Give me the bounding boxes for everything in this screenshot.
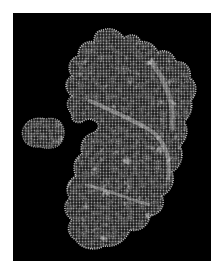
image-frame	[13, 13, 211, 261]
molecular-surface-render	[13, 13, 211, 261]
